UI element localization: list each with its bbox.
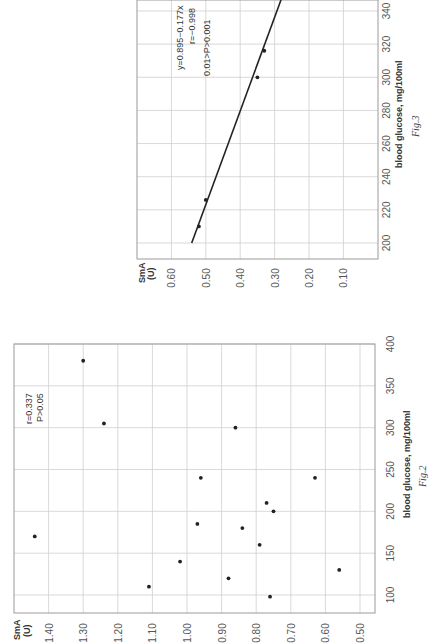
data-point [313,476,317,480]
smA-tick-label: 0.60 [166,268,177,288]
data-point [234,426,238,430]
data-point [33,535,37,539]
fig3-ylabel-line2: (U) [146,268,156,281]
data-point [195,522,199,526]
fig3-annotation-equation: y=0.895−0.177x [175,5,185,70]
data-point [272,509,276,513]
fig2-xlabel: blood glucose, mg/100ml [402,410,412,518]
fig3-smA-tick-labels: 0.600.500.400.300.200.10 [166,268,349,288]
fig2-annotation-p: P>0.05 [35,393,45,422]
data-point [262,49,266,53]
glucose-tick-label: 260 [381,135,392,152]
glucose-tick-label: 200 [385,503,396,520]
glucose-tick-label: 400 [385,335,396,352]
glucose-tick-label: 100 [385,586,396,603]
data-point [81,359,85,363]
data-point [240,526,244,530]
fig2-caption: Fig.2 [417,466,428,488]
glucose-tick-label: 220 [381,201,392,218]
data-point [227,576,231,580]
fig3-annotation-p: 0.01>P>0.001 [202,19,212,76]
smA-tick-label: 1.30 [78,623,89,643]
smA-tick-label: 1.00 [182,623,193,643]
fig3-annotation-r: r=−0.998 [187,8,197,44]
smA-tick-label: 0.10 [338,268,349,288]
fig2-plot-frame [14,344,375,613]
chart-canvas: 0.600.500.400.300.200.10 200220240260280… [0,0,428,643]
fig3-chart: 0.600.500.400.300.200.10 200220240260280… [137,0,421,288]
fig3-xlabel: blood glucose, mg/100ml [394,60,404,168]
data-point [147,585,151,589]
glucose-tick-label: 280 [381,102,392,119]
glucose-tick-label: 250 [385,461,396,478]
smA-tick-label: 0.50 [201,268,212,288]
data-point [337,568,341,572]
glucose-tick-label: 300 [381,69,392,86]
smA-tick-label: 0.20 [304,268,315,288]
smA-tick-label: 1.20 [113,623,124,643]
smA-tick-label: 0.90 [217,623,228,643]
data-point [199,476,203,480]
glucose-tick-label: 340 [381,2,392,19]
fig2-smA-tick-labels: 1.401.301.201.101.000.900.800.700.600.50 [44,623,366,643]
data-point [268,595,272,599]
glucose-tick-label: 200 [381,234,392,251]
data-point [102,422,106,426]
fig3-plot-frame [137,0,378,259]
glucose-tick-label: 350 [385,377,396,394]
data-point [256,75,260,79]
fig2-annotation-r: r=0.337 [24,393,34,424]
glucose-tick-label: 240 [381,168,392,185]
smA-tick-label: 0.30 [270,268,281,288]
fig3-caption: Fig.3 [410,116,421,138]
smA-tick-label: 1.10 [147,623,158,643]
smA-tick-label: 0.80 [251,623,262,643]
fig2-gridlines [14,344,375,613]
smA-tick-label: 0.60 [320,623,331,643]
fig2-ylabel-line2: (U) [22,625,32,638]
smA-tick-label: 0.40 [235,268,246,288]
data-point [178,560,182,564]
fig2-ylabel-line1: SmA [12,619,22,640]
glucose-tick-label: 150 [385,544,396,561]
glucose-tick-label: 320 [381,35,392,52]
data-point [204,198,208,202]
fig3-gridlines [137,0,378,259]
smA-tick-label: 0.50 [355,623,366,643]
fig3-glucose-tick-labels: 200220240260280300320340 [381,2,392,251]
figure-page: 0.600.500.400.300.200.10 200220240260280… [0,0,428,643]
glucose-tick-label: 300 [385,419,396,436]
data-point [258,543,262,547]
smA-tick-label: 1.40 [44,623,55,643]
fig2-glucose-tick-labels: 100150200250300350400 [385,335,396,603]
data-point [197,225,201,229]
data-point [265,501,269,505]
smA-tick-label: 0.70 [286,623,297,643]
fig2-chart: 1.401.301.201.101.000.900.800.700.600.50… [12,335,428,643]
